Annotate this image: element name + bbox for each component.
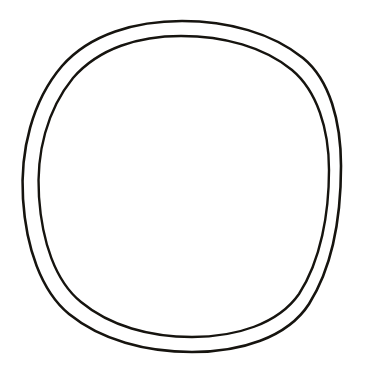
drawing-canvas: A simple black-and-white line drawing co… [0, 0, 366, 373]
background-surface [0, 0, 366, 373]
concentric-circles-drawing [0, 0, 366, 373]
